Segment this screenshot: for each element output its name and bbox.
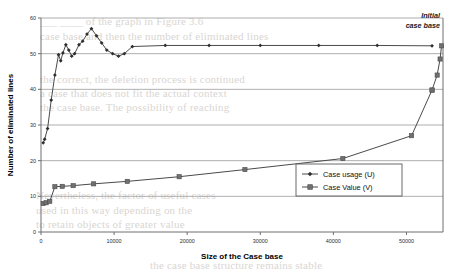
y-tick-label: 40: [30, 86, 36, 92]
marker-square: [53, 185, 57, 189]
marker-square: [430, 88, 434, 92]
x-tick-label: 40000: [326, 238, 341, 244]
marker-square: [71, 184, 75, 188]
y-tick-label: 60: [30, 15, 36, 21]
y-tick-label: 20: [30, 158, 36, 164]
x-tick-label: 10000: [107, 238, 122, 244]
legend-label: Case Value (V): [323, 183, 373, 192]
chart-legend[interactable]: Case usage (U)Case Value (V): [296, 164, 402, 196]
marker-square: [48, 199, 52, 203]
y-axis-title: Number of eliminated lines: [6, 73, 15, 176]
marker-square: [438, 57, 442, 61]
y-tick-label: 30: [30, 122, 36, 128]
initial-case-base-annotation-line1: Initial: [421, 11, 441, 20]
x-tick-label: 0: [40, 238, 43, 244]
x-axis-title: Size of the Case base: [201, 252, 283, 261]
initial-case-base-annotation-line2: case base: [406, 21, 440, 30]
legend-label: Case usage (U): [323, 170, 375, 179]
y-tick-label: 0: [33, 229, 36, 235]
y-tick-label: 50: [30, 51, 36, 57]
marker-square: [243, 167, 247, 171]
marker-square: [439, 44, 443, 48]
x-tick-label: 50000: [399, 238, 414, 244]
marker-square: [435, 73, 439, 77]
chart-svg: 0102030405060 01000020000300004000050000…: [0, 0, 463, 279]
marker-square: [60, 184, 64, 188]
marker-square: [177, 175, 181, 179]
x-tick-label: 30000: [253, 238, 268, 244]
y-tick-label: 10: [30, 193, 36, 199]
marker-square: [341, 156, 345, 160]
chart-figure: 0102030405060 01000020000300004000050000…: [0, 0, 463, 279]
legend-marker-square: [308, 185, 313, 190]
marker-square: [409, 134, 413, 138]
marker-square: [125, 179, 129, 183]
x-tick-label: 20000: [180, 238, 195, 244]
marker-square: [92, 182, 96, 186]
